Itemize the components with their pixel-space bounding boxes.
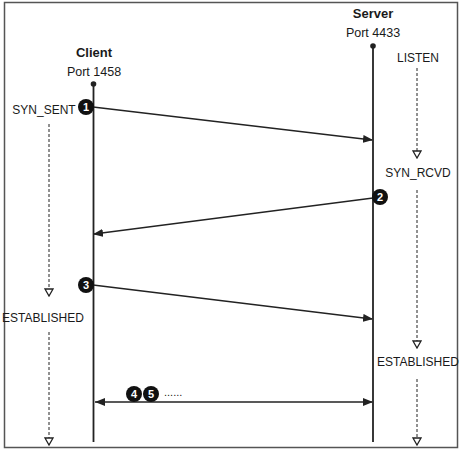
- server-state-syn-rcvd: SYN_RCVD: [385, 166, 451, 180]
- step-badge-4: 4: [126, 386, 142, 402]
- step-badge-5: 5: [143, 386, 159, 402]
- client-state-syn-sent: SYN_SENT: [12, 103, 76, 117]
- client-title: Client: [76, 45, 113, 60]
- server-title: Server: [353, 6, 393, 21]
- continuation-dots: ......: [164, 386, 182, 398]
- tcp-handshake-diagram: Client Port 1458 Server Port 4433 SYN_SE…: [0, 0, 462, 452]
- step-badge-2: 2: [372, 189, 388, 205]
- svg-text:3: 3: [83, 279, 89, 291]
- server-port-label: Port 4433: [346, 26, 400, 40]
- server-state-listen: LISTEN: [397, 51, 439, 65]
- svg-text:5: 5: [148, 388, 154, 400]
- svg-text:1: 1: [83, 101, 89, 113]
- client-port-label: Port 1458: [67, 65, 121, 79]
- step-badge-3: 3: [78, 277, 94, 293]
- step-badge-1: 1: [78, 99, 94, 115]
- client-state-established: ESTABLISHED: [2, 311, 84, 325]
- svg-text:4: 4: [131, 388, 138, 400]
- server-state-established: ESTABLISHED: [377, 355, 459, 369]
- svg-text:2: 2: [377, 191, 383, 203]
